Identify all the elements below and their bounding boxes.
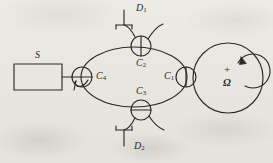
coupler-c1-label-main: C: [164, 70, 171, 81]
detector-d2-label: D2: [134, 141, 145, 152]
coupler-c3-label: C3: [136, 86, 146, 97]
rotation-rate-text: Ω: [223, 77, 231, 88]
figure-canvas: S C4 C2 C3 C1 D1 D2 + Ω: [0, 0, 273, 163]
coupler-c4-label: C4: [96, 71, 106, 82]
source-box: [14, 64, 62, 90]
coupler-c2-label-main: C: [136, 57, 143, 68]
source-label: S: [35, 50, 40, 60]
c2-left-branch-to-d1: [124, 25, 135, 37]
c2-right-branch: [148, 24, 163, 39]
detector-d1-label-sub: 1: [143, 6, 146, 13]
coupler-c4-label-sub: 4: [103, 74, 106, 81]
rotation-sign-label: +: [224, 64, 230, 75]
coupler-c2-label-sub: 2: [143, 61, 146, 68]
schematic-drawing: [0, 0, 273, 163]
rotation-sign-text: +: [224, 63, 230, 75]
coupler-c3-label-sub: 3: [143, 89, 146, 96]
c3-right-branch: [149, 116, 164, 130]
source-label-text: S: [35, 49, 40, 60]
coupler-c2-label: C2: [136, 58, 146, 69]
detector-d2-label-sub: 2: [141, 144, 144, 151]
c3-left-branch-to-d2: [124, 118, 135, 130]
coupler-c4-label-main: C: [96, 70, 103, 81]
detector-d1-label: D1: [136, 3, 147, 14]
coupler-c1-label: C1: [164, 71, 174, 82]
rotation-rate-label: Ω: [223, 78, 231, 89]
coupler-c1-label-sub: 1: [171, 74, 174, 81]
rotation-arrow-head: [240, 57, 247, 65]
coupler-c3-label-main: C: [136, 85, 143, 96]
